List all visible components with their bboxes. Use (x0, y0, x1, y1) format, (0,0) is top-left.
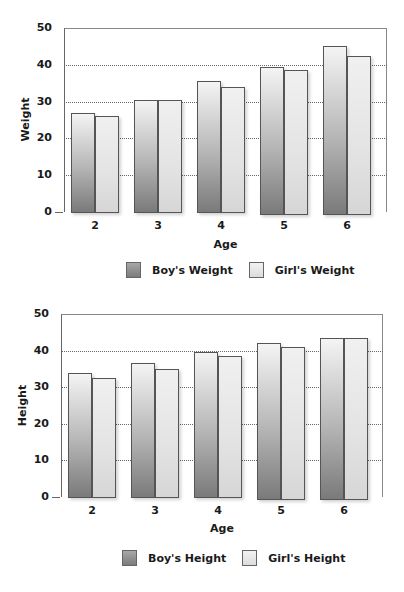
y-axis-label: Weight (19, 95, 32, 145)
bar-boy (320, 338, 344, 500)
legend-item-boy: Boy's Weight (126, 262, 233, 278)
x-axis-label: Age (192, 522, 252, 535)
bar-boy (134, 100, 158, 213)
bar-girl (92, 378, 116, 498)
bar-girl (221, 87, 245, 213)
y-tick-label: 10 (28, 168, 52, 181)
y-tick-label: 0 (28, 205, 52, 218)
bar-boy (71, 113, 95, 213)
bar-girl (218, 356, 242, 498)
legend-label: Boy's Height (148, 552, 226, 565)
bar-boy (323, 46, 347, 215)
legend-item-girl: Girl's Height (242, 550, 345, 566)
legend-swatch-boy (122, 550, 137, 566)
x-tick-label: 6 (334, 504, 354, 517)
bar-boy (257, 343, 281, 500)
bar-boy (260, 67, 284, 215)
x-axis-label: Age (196, 238, 256, 251)
bar-girl (284, 70, 308, 215)
x-tick-label: 5 (274, 219, 294, 232)
bar-girl (344, 338, 368, 500)
legend-swatch-girl (242, 550, 257, 566)
bar-girl (158, 100, 182, 213)
x-tick-label: 5 (271, 504, 291, 517)
x-tick-label: 3 (145, 504, 165, 517)
bar-girl (347, 56, 371, 215)
bar-girl (281, 347, 305, 500)
y-tick-label: 20 (28, 131, 52, 144)
legend-label: Girl's Height (268, 552, 345, 565)
legend-swatch-girl (249, 262, 264, 278)
y-tick-label: 30 (25, 380, 49, 393)
y-tick-label: 0 (25, 490, 49, 503)
legend-label: Boy's Weight (152, 264, 233, 277)
bar-girl (95, 116, 119, 213)
x-tick-label: 2 (82, 504, 102, 517)
y-tick-label: 50 (28, 21, 52, 34)
y-tick-label: 20 (25, 417, 49, 430)
bar-boy (131, 363, 155, 498)
y-tick-label: 40 (25, 344, 49, 357)
legend: Boy's WeightGirl's Weight (126, 262, 354, 278)
legend: Boy's HeightGirl's Height (122, 550, 345, 566)
y-axis-baseline-tick (55, 212, 63, 213)
y-tick-label: 40 (28, 58, 52, 71)
x-tick-label: 6 (337, 219, 357, 232)
x-tick-label: 3 (148, 219, 168, 232)
bar-boy (68, 373, 92, 498)
legend-label: Girl's Weight (275, 264, 355, 277)
x-tick-label: 2 (85, 219, 105, 232)
bar-boy (194, 352, 218, 498)
bar-boy (197, 81, 221, 213)
y-axis-label: Height (16, 380, 29, 430)
y-tick-label: 10 (25, 453, 49, 466)
bar-girl (155, 369, 179, 498)
y-tick-label: 50 (25, 307, 49, 320)
legend-item-girl: Girl's Weight (249, 262, 355, 278)
y-axis-baseline-tick (52, 497, 60, 498)
x-tick-label: 4 (208, 504, 228, 517)
y-tick-label: 30 (28, 95, 52, 108)
x-tick-label: 4 (211, 219, 231, 232)
legend-swatch-boy (126, 262, 141, 278)
legend-item-boy: Boy's Height (122, 550, 226, 566)
